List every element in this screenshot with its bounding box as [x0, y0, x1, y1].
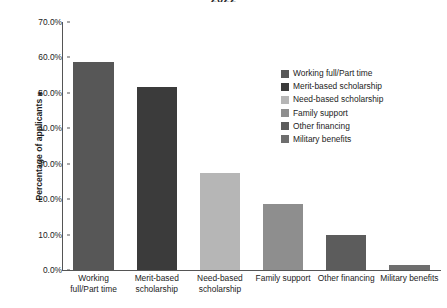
y-axis-tick-label: 60.0% [16, 52, 62, 62]
y-axis-tick-label: 70.0% [16, 17, 62, 27]
bar-chart: 2022 Percentage of applicants ⁎ 70.0%60.… [0, 0, 447, 308]
legend-item-label: Need-based scholarship [293, 94, 383, 105]
legend-swatch-icon [281, 83, 289, 91]
x-axis-category-label: Family support [252, 273, 315, 284]
bar[interactable] [389, 265, 429, 270]
bar[interactable] [263, 204, 303, 270]
legend: Working full/Part timeMerit-based schola… [281, 68, 383, 145]
legend-swatch-icon [281, 70, 289, 78]
y-axis-tick-label: 40.0% [16, 123, 62, 133]
y-axis-tick-label: 0.0% [16, 265, 62, 275]
legend-swatch-icon [281, 96, 289, 104]
x-axis-line [62, 270, 441, 271]
x-axis-labels: Working full/Part timeMerit-based schola… [62, 273, 441, 307]
y-axis-tick-label: 50.0% [16, 88, 62, 98]
legend-item[interactable]: Working full/Part time [281, 68, 383, 79]
bar[interactable] [73, 62, 113, 270]
legend-item[interactable]: Merit-based scholarship [281, 81, 383, 92]
bars-layer [62, 22, 441, 270]
legend-item-label: Merit-based scholarship [293, 81, 382, 92]
legend-item-label: Working full/Part time [293, 68, 372, 79]
legend-item[interactable]: Need-based scholarship [281, 94, 383, 105]
legend-swatch-icon [281, 109, 289, 117]
y-axis-tick-label: 30.0% [16, 159, 62, 169]
x-axis-category-label: Merit-based scholarship [125, 273, 188, 294]
y-axis-ticks: 70.0%60.0%50.0%40.0%30.0%20.0%10.0%0.0% [8, 0, 62, 308]
x-axis-category-label: Military benefits [378, 273, 441, 284]
legend-item[interactable]: Military benefits [281, 134, 383, 145]
legend-item[interactable]: Other financing [281, 121, 383, 132]
legend-item-label: Other financing [293, 121, 350, 132]
x-axis-category-label: Need-based scholarship [188, 273, 251, 294]
legend-item[interactable]: Family support [281, 108, 383, 119]
chart-title: 2022 [0, 0, 447, 2]
bar[interactable] [137, 87, 177, 270]
y-axis-tick-label: 10.0% [16, 230, 62, 240]
bar[interactable] [326, 235, 366, 270]
legend-swatch-icon [281, 135, 289, 143]
y-axis-tick-label: 20.0% [16, 194, 62, 204]
bar[interactable] [200, 173, 240, 270]
legend-item-label: Family support [293, 108, 348, 119]
x-axis-category-label: Other financing [315, 273, 378, 284]
legend-item-label: Military benefits [293, 134, 351, 145]
x-axis-category-label: Working full/Part time [62, 273, 125, 294]
legend-swatch-icon [281, 122, 289, 130]
